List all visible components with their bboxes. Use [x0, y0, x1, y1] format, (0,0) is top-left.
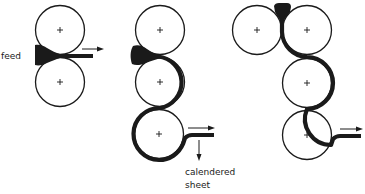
output-label-line1: calendered	[185, 167, 235, 177]
calender-diagram: feed calendered sheet	[0, 0, 365, 194]
arrow-head-icon	[208, 126, 215, 131]
output-label-line2: sheet	[185, 180, 210, 190]
three-roll-calender: calendered sheet	[131, 6, 236, 191]
feed-label: feed	[1, 51, 21, 61]
arrow-head-icon	[197, 154, 202, 161]
four-roll-calender	[233, 3, 364, 160]
arrow-head-icon	[356, 127, 363, 132]
arrow-head-icon	[97, 47, 104, 52]
two-roll-calender: feed	[1, 6, 104, 107]
